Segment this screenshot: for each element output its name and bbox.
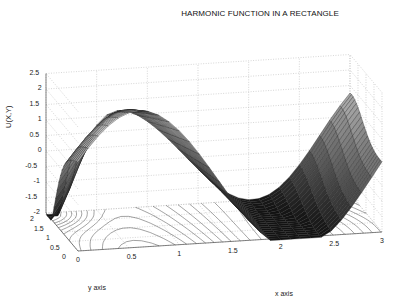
chart-title: HARMONIC FUNCTION IN A RECTANGLE bbox=[150, 9, 370, 18]
z-tick-label: -1 bbox=[34, 177, 40, 184]
z-tick-label: -2 bbox=[34, 208, 40, 215]
z-tick-label: 2 bbox=[38, 84, 42, 91]
x-tick-label: 2 bbox=[279, 243, 283, 250]
y-tick-label: 0 bbox=[62, 253, 66, 260]
x-tick-label: 0.5 bbox=[127, 253, 137, 260]
x-tick-label: 1.5 bbox=[228, 247, 238, 254]
x-tick-label: 3 bbox=[380, 237, 384, 244]
x-tick-label: 1 bbox=[177, 250, 181, 257]
y-tick-label: 1 bbox=[46, 234, 50, 241]
z-tick-label: -0.5 bbox=[25, 162, 37, 169]
z-tick-label: 1.5 bbox=[29, 100, 39, 107]
y-tick-label: 0.5 bbox=[50, 244, 60, 251]
surface-plot bbox=[0, 0, 403, 305]
x-axis-label: x axis bbox=[275, 290, 293, 297]
z-axis-label: U(X,Y) bbox=[4, 106, 13, 129]
z-tick-label: 2.5 bbox=[29, 69, 39, 76]
z-tick-label: 0.5 bbox=[29, 131, 39, 138]
y-tick-label: 2 bbox=[30, 215, 34, 222]
z-tick-label: 0 bbox=[38, 146, 42, 153]
z-tick-label: -1.5 bbox=[25, 193, 37, 200]
z-tick-label: 1 bbox=[38, 115, 42, 122]
x-tick-label: 2.5 bbox=[329, 240, 339, 247]
y-tick-label: 1.5 bbox=[34, 225, 44, 232]
x-tick-label: 0 bbox=[76, 256, 80, 263]
y-axis-label: y axis bbox=[88, 284, 106, 291]
